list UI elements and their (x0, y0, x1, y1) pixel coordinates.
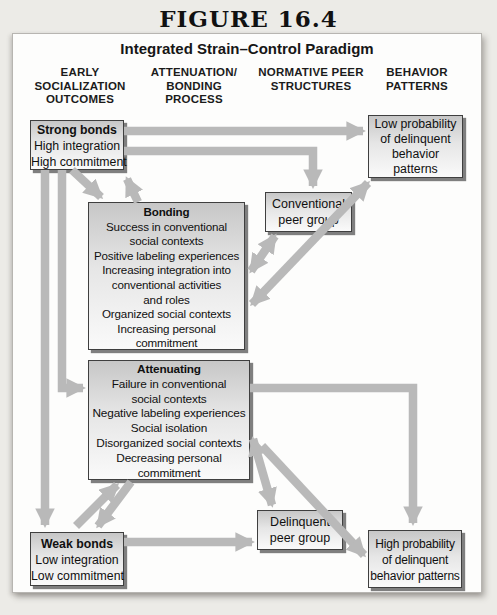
column-header-attenuation-bonding-process: ATTENUATION/ BONDING PROCESS (151, 66, 237, 107)
box-title: Strong bonds (31, 122, 123, 138)
box-weak-bonds: Weak bonds Low integration Low commitmen… (30, 532, 124, 586)
column-header-line: PATTERNS (386, 80, 448, 94)
column-header-line: BEHAVIOR (386, 66, 448, 80)
figure-16-4: FIGURE 16.4 Integrated Strain–Control Pa… (0, 0, 497, 615)
box-line: Decreasing personal (89, 451, 249, 466)
box-line: patterns (369, 162, 462, 177)
column-header-line: SOCIALIZATION (34, 80, 125, 94)
box-line: Increasing integration into (89, 263, 244, 278)
box-line: social contexts (89, 392, 249, 407)
box-delinquent-peer-group: Delinquent peer group (257, 510, 343, 550)
box-line: peer group (266, 212, 351, 228)
column-header-line: NORMATIVE PEER (258, 66, 363, 80)
box-line: Low probability (369, 117, 462, 132)
box-line: High probability (369, 536, 461, 552)
column-header-line: EARLY (34, 66, 125, 80)
box-line: behavior (369, 147, 462, 162)
box-line: Delinquent (258, 514, 342, 530)
column-header-line: OUTCOMES (34, 93, 125, 107)
box-line: Disorganized social contexts (89, 436, 249, 451)
column-header-behavior-patterns: BEHAVIOR PATTERNS (386, 66, 448, 93)
box-line: commitment (89, 336, 244, 351)
box-line: Low commitment (31, 568, 123, 584)
box-line: Increasing personal (89, 322, 244, 337)
box-line: Negative labeling experiences (89, 406, 249, 421)
figure-label: FIGURE 16.4 (0, 5, 497, 32)
box-line: of delinquent (369, 552, 461, 568)
box-line: behavior patterns (369, 568, 461, 584)
box-line: of delinquent (369, 132, 462, 147)
box-bonding: Bonding Success in conventional social c… (88, 202, 245, 350)
box-line: social contexts (89, 234, 244, 249)
column-header-line: ATTENUATION/ (151, 66, 237, 80)
box-conventional-peer-group: Conventional peer group (265, 192, 352, 232)
column-header-line: BONDING (151, 80, 237, 94)
box-line: commitment (89, 466, 249, 481)
box-title: Attenuating (89, 362, 249, 377)
box-low-probability: Low probability of delinquent behavior p… (368, 115, 463, 178)
box-line: Conventional (266, 196, 351, 212)
box-line: conventional activities (89, 278, 244, 293)
box-title: Bonding (89, 205, 244, 220)
column-header-normative-peer-structures: NORMATIVE PEER STRUCTURES (258, 66, 363, 93)
figure-title: Integrated Strain–Control Paradigm (12, 40, 482, 57)
box-line: Positive labeling experiences (89, 249, 244, 264)
box-attenuating: Attenuating Failure in conventional soci… (88, 360, 250, 480)
box-line: Organized social contexts (89, 307, 244, 322)
box-line: peer group (258, 530, 342, 546)
box-line: High commitment (31, 154, 123, 170)
column-header-line: PROCESS (151, 93, 237, 107)
box-title: Weak bonds (31, 536, 123, 552)
column-header-line: STRUCTURES (258, 80, 363, 94)
box-line: Social isolation (89, 421, 249, 436)
box-line: Success in conventional (89, 220, 244, 235)
box-line: Low integration (31, 552, 123, 568)
box-strong-bonds: Strong bonds High integration High commi… (30, 120, 124, 170)
column-header-early-socialization-outcomes: EARLY SOCIALIZATION OUTCOMES (34, 66, 125, 107)
box-high-probability: High probability of delinquent behavior … (368, 530, 462, 588)
box-line: High integration (31, 138, 123, 154)
box-line: Failure in conventional (89, 377, 249, 392)
box-line: and roles (89, 293, 244, 308)
